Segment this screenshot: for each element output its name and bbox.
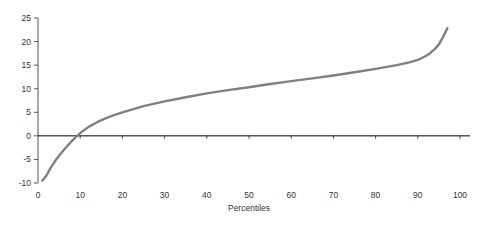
x-axis-tick-label: 60 — [286, 190, 296, 200]
y-axis-tick-label: 25 — [22, 13, 32, 23]
chart-container: -10-50510152025 0102030405060708090100 P… — [0, 0, 485, 227]
y-axis-tick-label: -5 — [23, 154, 31, 164]
x-axis-tick-label: 40 — [202, 190, 212, 200]
x-axis-tick-label: 100 — [453, 190, 467, 200]
y-axis-tick-label: 10 — [22, 84, 32, 94]
y-axis-tick-label: 20 — [22, 37, 32, 47]
x-axis-title-group: Percentiles — [228, 203, 270, 213]
y-axis-tick-label: 0 — [26, 131, 31, 141]
x-axis-title: Percentiles — [228, 203, 270, 213]
x-axis-tick-label: 10 — [75, 190, 85, 200]
x-axis-tick-label: 20 — [118, 190, 128, 200]
y-axis-tick-label: 5 — [26, 107, 31, 117]
x-axis-tick-label: 80 — [371, 190, 381, 200]
x-axis-tick-label: 30 — [160, 190, 170, 200]
x-axis-tick-label: 0 — [36, 190, 41, 200]
x-axis-tick-label: 90 — [413, 190, 423, 200]
percentile-line-chart: -10-50510152025 0102030405060708090100 P… — [0, 0, 485, 227]
x-axis-tick-label: 50 — [244, 190, 254, 200]
x-axis-tick-label: 70 — [329, 190, 339, 200]
y-axis-tick-label: -10 — [19, 178, 32, 188]
y-axis-tick-label: 15 — [22, 60, 32, 70]
